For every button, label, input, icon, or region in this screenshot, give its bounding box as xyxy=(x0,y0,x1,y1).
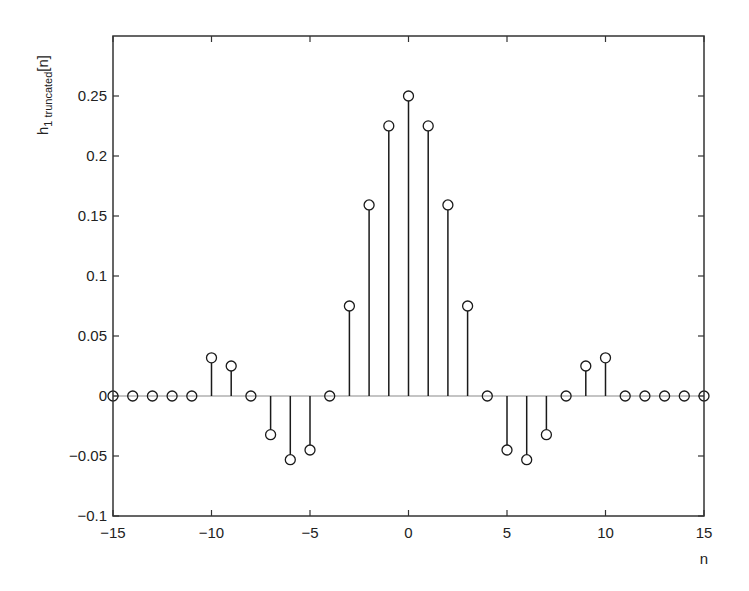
y-axis-label-suffix: [n] xyxy=(34,55,51,72)
stem-marker xyxy=(463,301,473,311)
y-tick-label: 0.15 xyxy=(78,207,107,224)
stem-point xyxy=(364,200,374,396)
stem-point xyxy=(226,361,236,396)
stem-marker xyxy=(226,361,236,371)
stem-marker xyxy=(423,121,433,131)
y-tick-label: 0 xyxy=(99,387,107,404)
stem-point xyxy=(522,396,532,465)
stem-point xyxy=(502,396,512,455)
x-axis-ticks: −15−10−5051015 xyxy=(100,36,712,541)
stem-point xyxy=(344,301,354,396)
stem-point xyxy=(305,396,315,455)
stem-marker xyxy=(364,200,374,210)
y-axis-label-base: h xyxy=(34,127,51,135)
stem-point xyxy=(384,121,394,396)
x-tick-label: 15 xyxy=(696,524,713,541)
y-tick-label: −0.1 xyxy=(77,507,107,524)
stem-marker xyxy=(305,445,315,455)
y-tick-label: 0.1 xyxy=(86,267,107,284)
stem-point xyxy=(463,301,473,396)
stem-point xyxy=(404,91,414,396)
y-tick-label: −0.05 xyxy=(69,447,107,464)
stem-point xyxy=(266,396,276,440)
stem-marker xyxy=(522,455,532,465)
stem-point xyxy=(207,353,217,396)
y-axis-label: h1 truncated[n] xyxy=(34,55,54,135)
stem-marker xyxy=(285,455,295,465)
stem-point xyxy=(581,361,591,396)
stem-marker xyxy=(541,430,551,440)
stem-point xyxy=(423,121,433,396)
x-tick-label: 0 xyxy=(404,524,412,541)
stem-marker xyxy=(502,445,512,455)
stem-marker xyxy=(601,353,611,363)
stem-series xyxy=(108,91,709,465)
stem-marker xyxy=(443,200,453,210)
stem-marker xyxy=(344,301,354,311)
x-tick-label: −15 xyxy=(100,524,125,541)
x-tick-label: −5 xyxy=(301,524,318,541)
stem-marker xyxy=(404,91,414,101)
x-axis-label: n xyxy=(700,550,708,567)
plot-area: −15−10−5051015 −0.1−0.0500.050.10.150.20… xyxy=(69,36,712,541)
y-axis-ticks: −0.1−0.0500.050.10.150.20.25 xyxy=(69,87,704,524)
x-tick-label: −10 xyxy=(199,524,224,541)
y-axis-label-subscript: 1 truncated xyxy=(42,72,54,127)
stem-marker xyxy=(581,361,591,371)
y-tick-label: 0.25 xyxy=(78,87,107,104)
x-tick-label: 10 xyxy=(597,524,614,541)
y-tick-label: 0.05 xyxy=(78,327,107,344)
stem-marker xyxy=(384,121,394,131)
stem-marker xyxy=(266,430,276,440)
stem-plot: −15−10−5051015 −0.1−0.0500.050.10.150.20… xyxy=(0,0,749,591)
stem-point xyxy=(541,396,551,440)
x-tick-label: 5 xyxy=(503,524,511,541)
stem-marker xyxy=(207,353,217,363)
stem-point xyxy=(285,396,295,465)
stem-point xyxy=(443,200,453,396)
stem-point xyxy=(601,353,611,396)
y-tick-label: 0.2 xyxy=(86,147,107,164)
